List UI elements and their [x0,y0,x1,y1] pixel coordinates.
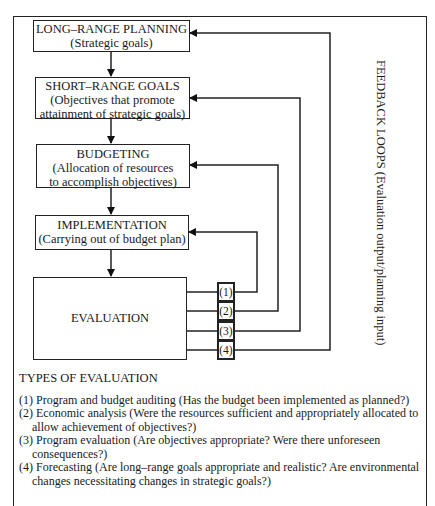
feedback-loops-label: FEEDBACK LOOPS (Evaluation output/planni… [373,60,388,345]
loop-number-4: (4) [217,340,235,360]
box-title: LONG–RANGE PLANNING [34,22,189,36]
box-subtitle: to accomplish objectives) [37,175,189,189]
type-item-1: (1) Program and budget auditing (Has the… [19,394,424,408]
loop-number-1: (1) [217,282,235,302]
box-subtitle: (Strategic goals) [34,36,189,50]
type-item-2: (2) Economic analysis (Were the resource… [19,407,424,434]
long-range-planning-box: LONG–RANGE PLANNING (Strategic goals) [33,20,190,52]
box-subtitle: (Allocation of resources [37,161,189,175]
budgeting-box: BUDGETING (Allocation of resources to ac… [36,144,190,188]
type-item-4: (4) Forecasting (Are long–range goals ap… [19,461,424,488]
loop-number-3: (3) [217,321,235,341]
box-subtitle: (Objectives that promote [36,93,189,107]
types-heading: TYPES OF EVALUATION [19,372,424,386]
box-subtitle: (Carrying out of budget plan) [36,232,188,246]
evaluation-box: EVALUATION [33,277,187,360]
short-range-goals-box: SHORT–RANGE GOALS (Objectives that promo… [35,77,190,119]
box-title: SHORT–RANGE GOALS [36,79,189,93]
types-of-evaluation: TYPES OF EVALUATION (1) Program and budg… [19,372,424,488]
box-subtitle: attainment of strategic goals) [36,107,189,121]
type-item-3: (3) Program evaluation (Are objectives a… [19,434,424,461]
loop-number-2: (2) [217,301,235,321]
box-title: IMPLEMENTATION [36,218,188,232]
implementation-box: IMPLEMENTATION (Carrying out of budget p… [35,215,189,250]
box-title: EVALUATION [71,311,149,325]
box-title: BUDGETING [37,147,189,161]
